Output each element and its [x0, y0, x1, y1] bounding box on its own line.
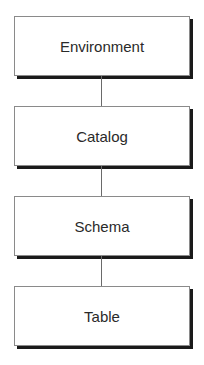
node-label: Environment: [60, 38, 144, 55]
node-label: Schema: [74, 218, 129, 235]
node-catalog: Catalog: [14, 106, 190, 166]
node-environment: Environment: [14, 16, 190, 76]
node-label: Table: [84, 308, 120, 325]
node-table: Table: [14, 286, 190, 346]
node-label: Catalog: [76, 128, 128, 145]
connector-schema-table: [101, 256, 102, 286]
node-schema: Schema: [14, 196, 190, 256]
connector-environment-catalog: [101, 76, 102, 106]
connector-catalog-schema: [101, 166, 102, 196]
